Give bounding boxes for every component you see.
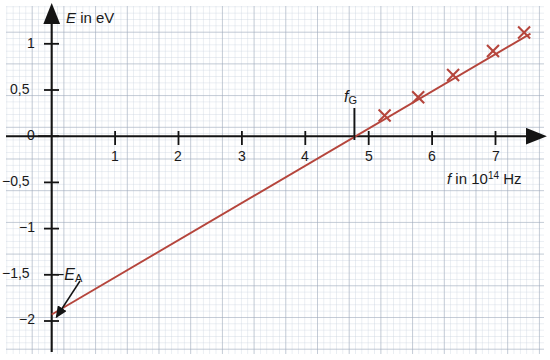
y-axis-label: E in eV <box>66 9 114 26</box>
photoelectric-effect-chart: E in eV f in 1014 Hz 1 0,5 0 −0,5 −1 −1,… <box>0 0 550 360</box>
x-axis-text-after: Hz <box>499 170 522 187</box>
x-tick-label: 2 <box>174 148 182 164</box>
y-tick-label: 0,5 <box>10 81 29 97</box>
work-function-minus-sign: − <box>55 266 64 283</box>
threshold-frequency-subscript: G <box>348 94 357 106</box>
y-axis-symbol: E <box>66 9 76 26</box>
x-axis-label: f in 1014 Hz <box>447 170 522 187</box>
y-tick-label: −2 <box>19 311 35 327</box>
x-tick-label: 5 <box>365 148 373 164</box>
y-tick-label: 0 <box>27 127 35 143</box>
work-function-label: −EA <box>55 266 82 284</box>
y-axis-unit-text: in eV <box>76 9 114 26</box>
y-tick-label: −1 <box>19 219 35 235</box>
work-function-subscript: A <box>75 272 82 284</box>
y-tick-label: −1,5 <box>2 265 30 281</box>
threshold-frequency-label: fG <box>344 88 357 106</box>
y-tick-label: −0,5 <box>2 173 30 189</box>
x-axis-exponent: 14 <box>488 170 499 181</box>
x-axis-text-before: in 10 <box>451 170 488 187</box>
x-tick-label: 7 <box>492 148 500 164</box>
y-tick-label: 1 <box>27 35 35 51</box>
x-tick-label: 4 <box>301 148 309 164</box>
x-tick-label: 6 <box>428 148 436 164</box>
x-tick-label: 1 <box>111 148 119 164</box>
work-function-symbol: E <box>64 266 75 283</box>
x-tick-label: 3 <box>238 148 246 164</box>
